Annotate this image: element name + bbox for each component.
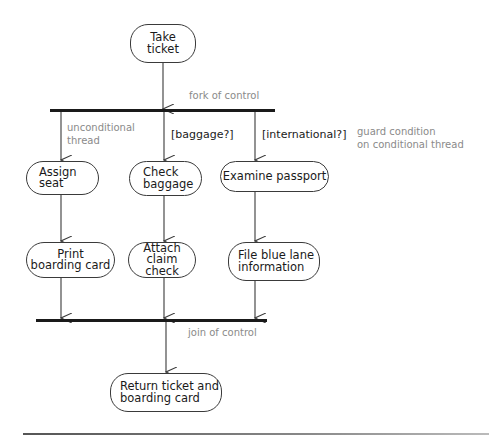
activity-label: File blue lane information	[238, 250, 314, 273]
activity-print-boarding-card: Print boarding card	[26, 242, 115, 278]
activity-label: Examine passport	[223, 171, 326, 183]
activity-label: Assign seat	[39, 167, 77, 190]
guard-baggage: [baggage?]	[171, 128, 234, 141]
activity-file-blue-lane: File blue lane information	[228, 242, 320, 281]
activity-assign-seat: Assign seat	[26, 161, 99, 195]
annotation-guard-condition: guard condition on conditional thread	[357, 125, 464, 151]
activity-return-ticket: Return ticket and boarding card	[110, 373, 222, 412]
activity-label: Print boarding card	[31, 249, 111, 272]
annotation-join: join of control	[188, 326, 257, 339]
activity-examine-passport: Examine passport	[220, 161, 329, 192]
fork-bar	[50, 109, 275, 112]
activity-label: Check baggage	[143, 167, 193, 190]
annotation-unconditional: unconditional thread	[67, 121, 135, 147]
guard-international: [international?]	[262, 128, 346, 141]
activity-take-ticket: Take ticket	[130, 24, 196, 63]
activity-label: Return ticket and boarding card	[120, 381, 219, 404]
activity-check-baggage: Check baggage	[129, 161, 202, 196]
activity-attach-claim-check: Attach claim check	[128, 242, 196, 278]
activity-label: Take ticket	[147, 32, 179, 55]
annotation-fork: fork of control	[189, 89, 259, 102]
join-bar	[36, 319, 267, 322]
activity-diagram: Take ticket Assign seat Check baggage Ex…	[0, 0, 489, 436]
activity-label: Attach claim check	[129, 243, 195, 278]
bottom-rule	[23, 433, 489, 435]
connectors	[0, 0, 489, 436]
